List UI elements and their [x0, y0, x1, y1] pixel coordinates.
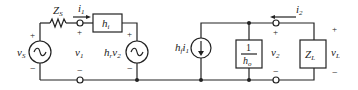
output-terminal-bottom [273, 77, 279, 83]
v1-plus: + [77, 27, 82, 37]
hf-i1-label: hfi1 [175, 41, 189, 55]
junction-dot [199, 78, 203, 82]
v1-minus: − [77, 65, 83, 76]
hr-plus: + [127, 29, 132, 39]
h-parameter-circuit-diagram: + − vS ZS i1 + − v1 hi + − hrv2 [0, 0, 358, 90]
wire-top-output [201, 23, 314, 40]
input-terminal-bottom [77, 77, 83, 83]
i2-label: i2 [296, 3, 303, 17]
output-loop: hfi1 1 ho i2 + − v2 ZL + − vL [175, 3, 340, 83]
vs-label: vS [17, 46, 26, 60]
junction-dot [247, 21, 251, 25]
hr-minus: − [127, 63, 133, 74]
output-terminal-top [273, 20, 279, 26]
vl-minus: − [332, 67, 338, 78]
ho-numerator: 1 [246, 42, 251, 53]
i1-label: i1 [78, 2, 85, 16]
vl-label: vL [331, 46, 340, 60]
vs-minus: − [30, 63, 36, 74]
zs-label: ZS [53, 4, 63, 18]
vl-plus: + [332, 24, 337, 34]
v2-label: v2 [271, 46, 280, 60]
resistor-icon [50, 19, 66, 27]
v2-minus: − [273, 66, 279, 77]
arrow-right-icon [86, 15, 91, 19]
junction-dot [247, 78, 251, 82]
hr-v2-label: hrv2 [104, 46, 121, 60]
arrow-left-icon [270, 15, 275, 19]
v1-label: v1 [75, 46, 83, 60]
input-terminal-top [77, 20, 83, 26]
v2-plus: + [273, 27, 278, 37]
input-loop: + − vS ZS i1 + − v1 hi + − hrv2 [17, 2, 201, 83]
junction-dot [135, 78, 139, 82]
vs-plus: + [30, 30, 35, 40]
